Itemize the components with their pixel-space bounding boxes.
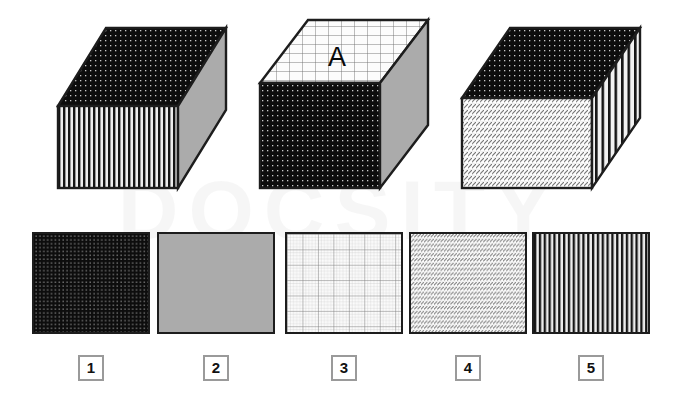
pattern-vertical-stripes bbox=[534, 234, 648, 332]
option-tile-4[interactable] bbox=[409, 232, 527, 334]
box-middle-front-face bbox=[260, 83, 380, 188]
box-right bbox=[452, 8, 652, 198]
puzzle-stage: DOCSITY A bbox=[0, 0, 679, 405]
option-tile-2[interactable] bbox=[157, 232, 275, 334]
pattern-fine-grid bbox=[287, 234, 401, 332]
option-label-4: 4 bbox=[455, 355, 481, 381]
box-face-letter: A bbox=[328, 42, 346, 72]
option-tiles bbox=[0, 232, 679, 342]
box-left-front-face bbox=[58, 106, 178, 188]
box-middle: A bbox=[250, 8, 450, 198]
pattern-dark-dotted bbox=[34, 234, 148, 332]
option-tile-3[interactable] bbox=[285, 232, 403, 334]
option-tile-1[interactable] bbox=[32, 232, 150, 334]
box-right-front-face bbox=[462, 98, 592, 188]
box-left bbox=[48, 8, 248, 198]
option-tile-5[interactable] bbox=[532, 232, 650, 334]
pattern-solid-gray bbox=[159, 234, 273, 332]
option-labels: 1 2 3 4 5 bbox=[0, 355, 679, 395]
option-label-2: 2 bbox=[203, 355, 229, 381]
option-label-1: 1 bbox=[78, 355, 104, 381]
option-label-5: 5 bbox=[578, 355, 604, 381]
pattern-diagonal-hatch bbox=[411, 234, 525, 332]
option-label-3: 3 bbox=[331, 355, 357, 381]
